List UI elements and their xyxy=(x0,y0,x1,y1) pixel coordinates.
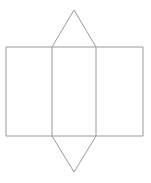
caption-strip xyxy=(0,173,151,183)
bottom-triangle-face xyxy=(52,136,96,172)
middle-rectangle-face xyxy=(52,47,96,136)
figure-canvas xyxy=(0,0,151,183)
top-triangle-face xyxy=(52,10,96,47)
left-rectangle-face xyxy=(6,47,52,136)
triangular-prism-net-diagram xyxy=(0,0,151,183)
right-rectangle-face xyxy=(96,47,143,136)
